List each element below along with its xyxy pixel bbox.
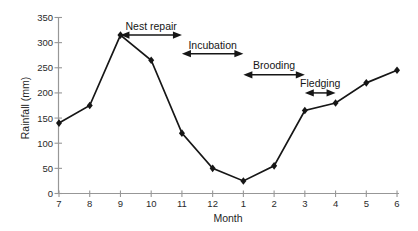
x-tick-label: 1 xyxy=(228,198,258,209)
x-tick-label: 2 xyxy=(259,198,289,209)
rainfall-line xyxy=(59,35,397,181)
y-axis-title: Rainfall (mm) xyxy=(19,77,31,139)
phase-label: Incubation xyxy=(188,39,236,51)
x-tick-label: 3 xyxy=(290,198,320,209)
phase-label: Nest repair xyxy=(126,20,177,32)
x-tick-label: 7 xyxy=(44,198,74,209)
phase-label: Fledging xyxy=(300,77,340,89)
data-point-marker xyxy=(56,119,62,127)
data-point-marker xyxy=(363,79,369,87)
phase-arrowhead-right xyxy=(327,89,336,96)
chart-canvas xyxy=(0,0,418,231)
data-point-marker xyxy=(333,99,339,107)
x-tick-label: 10 xyxy=(136,198,166,209)
x-tick-label: 6 xyxy=(382,198,412,209)
x-tick-label: 11 xyxy=(167,198,197,209)
y-tick-label: 150 xyxy=(19,113,53,124)
x-tick-label: 8 xyxy=(75,198,105,209)
phase-arrowhead-right xyxy=(173,31,182,38)
y-tick-label: 50 xyxy=(19,163,53,174)
data-point-marker xyxy=(87,102,93,110)
y-tick-label: 100 xyxy=(19,138,53,149)
phase-arrowhead-left xyxy=(120,31,129,38)
x-tick-label: 4 xyxy=(321,198,351,209)
phase-arrowhead-left xyxy=(305,89,314,96)
data-point-marker xyxy=(240,177,246,185)
phase-label: Brooding xyxy=(253,59,295,71)
data-point-marker xyxy=(394,66,400,74)
x-axis-title: Month xyxy=(213,212,242,224)
phase-arrowhead-right xyxy=(234,50,243,57)
phase-arrowhead-left xyxy=(243,71,252,78)
x-tick-label: 5 xyxy=(351,198,381,209)
rainfall-breeding-chart: Rainfall (mm) Month 05010015020025030035… xyxy=(0,0,418,231)
y-tick-label: 200 xyxy=(19,87,53,98)
x-tick-label: 9 xyxy=(105,198,135,209)
y-tick-label: 300 xyxy=(19,37,53,48)
y-tick-label: 350 xyxy=(19,12,53,23)
phase-arrowhead-left xyxy=(182,50,191,57)
y-tick-label: 250 xyxy=(19,62,53,73)
x-tick-label: 12 xyxy=(198,198,228,209)
